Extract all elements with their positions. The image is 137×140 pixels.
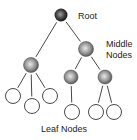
leaf-node xyxy=(6,89,21,104)
root-node xyxy=(55,9,68,22)
tree-edge xyxy=(18,73,26,88)
tree-edge xyxy=(66,22,80,41)
leaf-node xyxy=(25,99,40,114)
tree-nodes xyxy=(6,9,122,120)
tree-edge xyxy=(107,86,111,103)
middle-node xyxy=(24,58,39,73)
tree-edge xyxy=(98,86,102,103)
middle-node xyxy=(98,70,112,84)
leaf-node xyxy=(89,105,104,120)
leaf-nodes-label: Leaf Nodes xyxy=(41,124,88,134)
tree-edge xyxy=(91,57,100,70)
middle-node xyxy=(64,70,78,84)
tree-edge xyxy=(31,74,32,96)
middle-node xyxy=(79,42,94,57)
tree-edge xyxy=(36,22,57,57)
tree-edge xyxy=(36,73,45,88)
tree-diagram: Root Middle Nodes Leaf Nodes xyxy=(0,0,137,140)
middle-nodes-label-line1: Middle xyxy=(106,39,133,49)
leaf-node xyxy=(43,89,58,104)
tree-edge xyxy=(75,57,81,69)
root-label: Root xyxy=(78,11,98,21)
middle-nodes-label-line2: Nodes xyxy=(106,50,133,60)
leaf-node xyxy=(107,105,122,120)
leaf-node xyxy=(65,105,80,120)
